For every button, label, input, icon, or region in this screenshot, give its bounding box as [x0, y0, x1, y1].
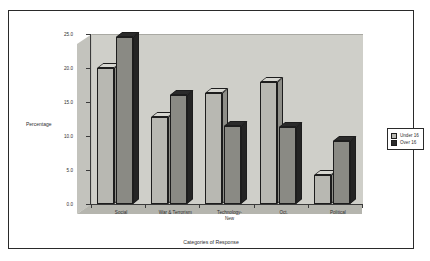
x-tick-mark — [91, 204, 92, 208]
bar-face — [116, 37, 133, 204]
y-axis-title: Percentage — [26, 121, 52, 127]
bar-under[interactable] — [151, 117, 168, 204]
x-tick-mark — [254, 204, 255, 208]
y-tick-label: 0.0 — [67, 202, 73, 207]
bar-under[interactable] — [205, 93, 222, 204]
bar-over[interactable] — [170, 95, 187, 204]
x-axis-category-label: Oct. — [279, 210, 287, 216]
bar-face — [205, 93, 222, 204]
x-tick-mark — [145, 204, 146, 208]
bar-face — [224, 126, 241, 204]
bar-over[interactable] — [333, 141, 350, 204]
chart-legend[interactable]: Under 16 Over 16 — [387, 128, 424, 150]
bar-side — [350, 136, 356, 204]
y-tick-label: 10.0 — [64, 134, 73, 139]
y-tick-label: 15.0 — [64, 100, 73, 105]
bar-over[interactable] — [224, 126, 241, 204]
bar-face — [333, 141, 350, 204]
x-axis-line — [91, 204, 362, 205]
bar-face — [279, 127, 296, 204]
y-tick-mark — [86, 170, 91, 171]
bar-face — [314, 175, 331, 204]
bar-face — [170, 95, 187, 204]
x-tick-mark — [362, 204, 363, 208]
plot-area: 0.05.010.015.020.025.0 SocialWar & Terro… — [77, 34, 362, 214]
y-tick-label: 20.0 — [64, 66, 73, 71]
bar-under[interactable] — [314, 175, 331, 204]
bar-under[interactable] — [260, 82, 277, 204]
legend-item-over[interactable]: Over 16 — [391, 139, 419, 146]
x-axis-category-label: Technology- New — [217, 210, 242, 222]
x-tick-mark — [308, 204, 309, 208]
bar-side — [296, 122, 302, 204]
y-tick-mark — [86, 34, 91, 35]
y-tick-mark — [86, 102, 91, 103]
y-tick-label: 5.0 — [67, 168, 73, 173]
legend-swatch-under-icon — [391, 133, 397, 139]
bar-face — [97, 68, 114, 204]
bar-face — [151, 117, 168, 204]
legend-item-under[interactable]: Under 16 — [391, 132, 419, 139]
chart-frame: Percentage 0.05.010.015.020.025.0 Social… — [8, 10, 414, 249]
x-tick-mark — [199, 204, 200, 208]
legend-swatch-over-icon — [391, 140, 397, 146]
x-axis-category-label: Political — [330, 210, 346, 216]
bar-side — [187, 90, 193, 204]
legend-label-under: Under 16 — [400, 133, 419, 138]
x-axis-title: Categories of Response — [9, 239, 413, 245]
y-tick-mark — [86, 68, 91, 69]
bar-over[interactable] — [279, 127, 296, 204]
bar-over[interactable] — [116, 37, 133, 204]
y-axis-line — [90, 34, 91, 204]
bar-side — [241, 121, 247, 204]
y-tick-mark — [86, 136, 91, 137]
y-tick-label: 25.0 — [64, 32, 73, 37]
bar-side — [133, 32, 139, 204]
legend-label-over: Over 16 — [400, 140, 416, 145]
bar-under[interactable] — [97, 68, 114, 204]
x-axis-category-label: War & Terrorism — [159, 210, 192, 216]
x-axis-category-label: Social — [115, 210, 128, 216]
bar-face — [260, 82, 277, 204]
